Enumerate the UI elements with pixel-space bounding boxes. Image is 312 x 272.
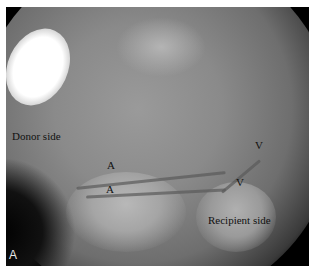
artery-label: A — [107, 160, 115, 171]
tissue-highlight — [116, 17, 206, 77]
artery-label: A — [106, 184, 114, 195]
panel-label: A — [9, 248, 17, 262]
vein-label: V — [236, 177, 244, 188]
endoscopic-image: Donor side A A V V Recipient side A — [6, 7, 309, 266]
recipient-side-label: Recipient side — [208, 215, 271, 226]
donor-side-label: Donor side — [12, 131, 61, 142]
vein-label: V — [255, 140, 263, 151]
